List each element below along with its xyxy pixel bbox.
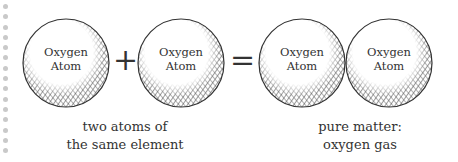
caption-right: pure matter: oxygen gas xyxy=(300,118,420,154)
caption-right-line1: pure matter: xyxy=(300,118,420,136)
plus-sign: + xyxy=(113,45,138,75)
oxygen-atom-4: Oxygen Atom xyxy=(344,17,434,109)
caption-left: two atoms of the same element xyxy=(60,118,190,154)
atom-label-line1: Oxygen xyxy=(21,45,111,59)
atom-label-line2: Atom xyxy=(344,59,434,73)
margin-dot xyxy=(3,45,8,50)
atom-label: Oxygen Atom xyxy=(136,45,226,73)
margin-dot xyxy=(3,14,8,19)
margin-dot xyxy=(3,35,8,40)
margin-dot xyxy=(3,117,8,122)
atom-label: Oxygen Atom xyxy=(344,45,434,73)
atom-label-line2: Atom xyxy=(21,59,111,73)
margin-dot xyxy=(3,76,8,81)
margin-dot xyxy=(3,138,8,143)
margin-dot xyxy=(3,107,8,112)
atom-label-line2: Atom xyxy=(136,59,226,73)
atom-label: Oxygen Atom xyxy=(21,45,111,73)
oxygen-atom-2: Oxygen Atom xyxy=(136,17,226,109)
margin-dot xyxy=(3,148,8,153)
margin-dot xyxy=(3,128,8,133)
caption-left-line2: the same element xyxy=(60,136,190,154)
atom-label-line1: Oxygen xyxy=(344,45,434,59)
caption-left-line1: two atoms of xyxy=(60,118,190,136)
margin-dot xyxy=(3,25,8,30)
margin-dots xyxy=(3,4,9,162)
atom-label: Oxygen Atom xyxy=(257,45,347,73)
equals-sign: = xyxy=(230,45,255,75)
margin-dot xyxy=(3,97,8,102)
oxygen-atom-3: Oxygen Atom xyxy=(257,17,347,109)
margin-dot xyxy=(3,66,8,71)
margin-dot xyxy=(3,86,8,91)
oxygen-atom-1: Oxygen Atom xyxy=(21,17,111,109)
atom-label-line1: Oxygen xyxy=(257,45,347,59)
atom-label-line2: Atom xyxy=(257,59,347,73)
margin-dot xyxy=(3,55,8,60)
atom-label-line1: Oxygen xyxy=(136,45,226,59)
caption-right-line2: oxygen gas xyxy=(300,136,420,154)
margin-dot xyxy=(3,4,8,9)
